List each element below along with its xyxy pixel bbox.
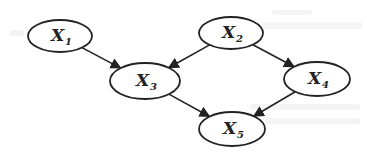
edge-x1-to-x3	[82, 48, 121, 68]
node-subscript: 4	[322, 79, 329, 90]
node-subscript: 1	[65, 36, 72, 47]
edge-x3-to-x5	[169, 94, 210, 116]
node-label: X	[307, 68, 322, 88]
node-x5: X5	[199, 112, 265, 146]
directed-graph: X1X2X3X4X5	[0, 0, 367, 159]
node-x3: X3	[110, 63, 180, 99]
edge-x4-to-x5	[254, 92, 296, 116]
edge-x2-to-x4	[253, 45, 294, 67]
node-subscript: 5	[237, 129, 244, 140]
node-label: X	[135, 70, 150, 90]
node-x1: X1	[28, 20, 92, 52]
node-x4: X4	[284, 62, 350, 96]
edge-x2-to-x3	[169, 45, 210, 68]
node-subscript: 2	[235, 33, 243, 44]
node-label: X	[222, 118, 237, 138]
node-label: X	[221, 22, 236, 42]
nodes: X1X2X3X4X5	[28, 17, 350, 146]
node-label: X	[50, 25, 65, 45]
node-x2: X2	[199, 17, 263, 49]
node-subscript: 3	[150, 81, 157, 92]
